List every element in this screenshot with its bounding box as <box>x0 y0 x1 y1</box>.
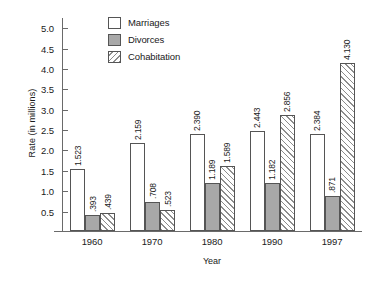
bar-group-1980: 2.3901.1891.589 <box>190 18 235 231</box>
y-tick-label: 1.5 <box>28 165 54 176</box>
bar-value-label: 1.182 <box>267 160 277 180</box>
bar-value-label: 2.443 <box>252 108 262 128</box>
legend: MarriagesDivorcesCohabitation <box>108 16 180 63</box>
bar-marriages-1980: 2.390 <box>190 134 205 231</box>
y-tick-mark <box>63 28 68 29</box>
bar-value-label: 2.856 <box>282 91 292 111</box>
x-tick-label-1980: 1980 <box>189 236 236 247</box>
y-tick-mark <box>63 89 68 90</box>
legend-item-divorces: Divorces <box>108 33 180 46</box>
y-tick-mark <box>63 49 68 50</box>
bar-group-1990: 2.4431.1822.856 <box>250 18 295 231</box>
y-tick-mark <box>63 191 68 192</box>
bar-value-label: .708 <box>147 183 157 199</box>
bar-value-label: .439 <box>102 194 112 210</box>
legend-swatch-cohab <box>108 51 121 63</box>
x-axis-line <box>54 231 362 232</box>
bar-marriages-1960: 1.523 <box>70 169 85 231</box>
bar-divorces-1980: 1.189 <box>205 183 220 231</box>
bar-value-label: 2.384 <box>312 111 322 131</box>
bar-value-label: 2.159 <box>132 120 142 140</box>
y-tick-label: 1.0 <box>28 186 54 197</box>
bar-chart: Rate (in millions) 0.51.01.52.02.53.03.5… <box>0 0 373 283</box>
x-axis-label: Year <box>62 256 362 266</box>
y-tick-mark <box>63 130 68 131</box>
bar-marriages-1970: 2.159 <box>130 143 145 231</box>
bar-cohab-1980: 1.589 <box>220 166 235 231</box>
y-tick-mark <box>63 150 68 151</box>
bar-cohab-1990: 2.856 <box>280 115 295 231</box>
bar-value-label: .523 <box>162 191 172 207</box>
legend-swatch-marriages <box>108 17 121 29</box>
bar-value-label: .871 <box>327 177 337 193</box>
y-tick-label: 2.5 <box>28 125 54 136</box>
y-tick-label: 3.0 <box>28 104 54 115</box>
y-tick-label: 3.5 <box>28 84 54 95</box>
bar-divorces-1970: .708 <box>145 202 160 231</box>
y-tick-mark <box>63 171 68 172</box>
legend-label: Marriages <box>128 17 169 28</box>
bar-value-label: 1.189 <box>207 159 217 179</box>
x-tick-label-1960: 1960 <box>69 236 116 247</box>
legend-label: Cohabitation <box>128 51 180 62</box>
x-tick-label-1997: 1997 <box>309 236 356 247</box>
bar-cohab-1970: .523 <box>160 210 175 231</box>
bar-value-label: 1.523 <box>72 146 82 166</box>
x-axis-tick-labels: 19601970198019901997 <box>62 236 362 247</box>
y-tick-label: 4.5 <box>28 43 54 54</box>
plot-area: 1.523.393.4392.159.708.5232.3901.1891.58… <box>62 18 362 232</box>
bar-value-label: 4.130 <box>342 39 352 59</box>
y-tick-mark <box>63 110 68 111</box>
y-tick-mark <box>63 69 68 70</box>
bar-cohab-1997: 4.130 <box>340 63 355 231</box>
bar-value-label: 1.589 <box>222 143 232 163</box>
y-tick-label: 5.0 <box>28 23 54 34</box>
y-tick-mark <box>63 212 68 213</box>
bar-marriages-1997: 2.384 <box>310 134 325 231</box>
legend-item-marriages: Marriages <box>108 16 180 29</box>
x-tick-label-1970: 1970 <box>129 236 176 247</box>
bar-divorces-1990: 1.182 <box>265 183 280 231</box>
legend-item-cohab: Cohabitation <box>108 50 180 63</box>
bar-group-1997: 2.384.8714.130 <box>310 18 355 231</box>
bar-value-label: .393 <box>87 196 97 212</box>
y-tick-label: 4.0 <box>28 63 54 74</box>
bar-marriages-1990: 2.443 <box>250 131 265 231</box>
legend-label: Divorces <box>128 34 164 45</box>
bar-cohab-1960: .439 <box>100 213 115 231</box>
bar-value-label: 2.390 <box>192 110 202 130</box>
bar-divorces-1997: .871 <box>325 196 340 232</box>
y-axis-tick-labels: 0.51.01.52.02.53.03.54.04.55.0 <box>22 0 54 283</box>
legend-swatch-divorces <box>108 34 121 46</box>
x-tick-label-1990: 1990 <box>249 236 296 247</box>
bar-divorces-1960: .393 <box>85 215 100 231</box>
y-tick-label: 2.0 <box>28 145 54 156</box>
y-tick-label: 0.5 <box>28 206 54 217</box>
